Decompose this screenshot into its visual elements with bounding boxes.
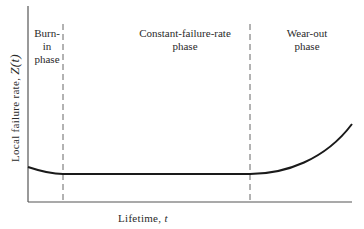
x-axis-variable: t — [164, 212, 167, 224]
x-axis-label: Lifetime, t — [118, 212, 168, 224]
constant-phase-label: Constant-failure-rate phase — [100, 27, 270, 53]
wear-out-phase-label: Wear-out phase — [262, 27, 352, 53]
y-axis-label: Local failure rate, Z(t) — [7, 54, 23, 162]
y-axis-variable: Z(t) — [7, 54, 22, 75]
y-axis-label-text: Local failure rate, — [9, 78, 21, 162]
burn-in-phase-label: Burn-in phase — [30, 27, 64, 66]
x-axis-label-text: Lifetime, — [118, 212, 161, 224]
failure-rate-curve — [28, 124, 352, 174]
